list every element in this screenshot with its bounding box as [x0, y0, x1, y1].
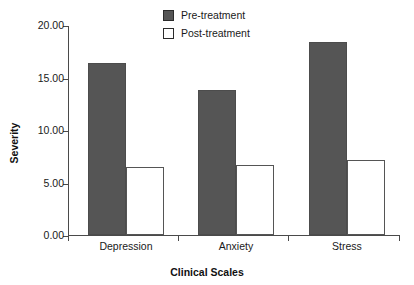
y-axis-title: Severity: [6, 0, 22, 285]
x-category-label-depression: Depression: [99, 240, 152, 252]
y-tick-label-20: 20.00: [38, 19, 64, 31]
x-tick-0: [68, 236, 69, 241]
bar-stress-post-treatment: [347, 160, 385, 235]
y-tick-label-15: 15.00: [38, 72, 64, 84]
legend-swatch-pre-treatment: [163, 10, 174, 21]
plot-area: 20.00 15.00 10.00 5.00 0.00: [68, 26, 400, 236]
bar-anxiety-post-treatment: [236, 165, 274, 235]
bar-depression-post-treatment: [126, 167, 164, 235]
bar-stress-pre-treatment: [309, 42, 347, 235]
x-category-label-stress: Stress: [332, 240, 362, 252]
legend-item-pre-treatment: Pre-treatment: [163, 9, 250, 22]
y-tick-label-10: 10.00: [38, 124, 64, 136]
bar-anxiety-pre-treatment: [198, 90, 236, 235]
y-tick-label-0: 0.00: [44, 229, 64, 241]
x-tick-1: [178, 236, 179, 241]
bar-depression-pre-treatment: [88, 63, 126, 235]
y-tick-label-5: 5.00: [44, 177, 64, 189]
x-category-label-anxiety: Anxiety: [219, 240, 253, 252]
x-axis-line: [68, 235, 400, 236]
bar-chart-figure: Pre-treatment Post-treatment Severity 20…: [0, 0, 414, 285]
legend-label-pre-treatment: Pre-treatment: [181, 10, 245, 21]
y-axis-line: [68, 26, 69, 236]
x-axis-title: Clinical Scales: [0, 266, 414, 278]
x-tick-3: [399, 236, 400, 241]
y-axis-title-text: Severity: [8, 122, 20, 163]
x-tick-2: [288, 236, 289, 241]
